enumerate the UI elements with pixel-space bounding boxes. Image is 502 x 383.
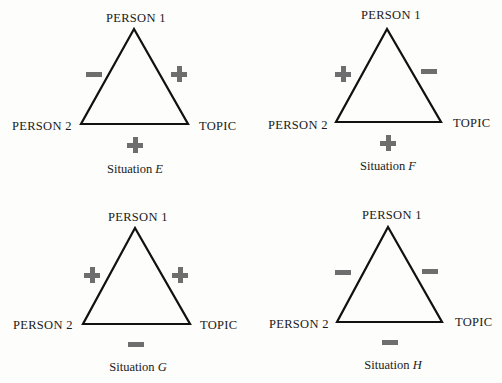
situation-g-diagram: PERSON 1 PERSON 2 TOPIC Situation G — [0, 190, 251, 383]
situation-caption: Situation H — [364, 358, 421, 373]
caption-prefix: Situation — [109, 360, 154, 374]
vertex-person2: PERSON 2 — [268, 118, 328, 133]
caption-letter: E — [155, 162, 163, 176]
caption-letter: H — [413, 358, 422, 372]
vertex-person2: PERSON 2 — [269, 317, 329, 332]
vertex-person2: PERSON 2 — [13, 318, 73, 333]
vertex-person1: PERSON 1 — [361, 8, 421, 23]
caption-letter: F — [408, 159, 416, 173]
vertex-person1: PERSON 1 — [106, 11, 166, 26]
vertex-person1: PERSON 1 — [108, 210, 168, 225]
situation-caption: Situation F — [360, 159, 416, 174]
vertex-person1: PERSON 1 — [362, 208, 422, 223]
situation-f-diagram: PERSON 1 PERSON 2 TOPIC Situation F — [251, 0, 502, 190]
situation-e-diagram: PERSON 1 PERSON 2 TOPIC Situation E — [0, 0, 251, 190]
vertex-person2: PERSON 2 — [12, 119, 72, 134]
situation-caption: Situation E — [107, 162, 163, 177]
vertex-topic: TOPIC — [199, 119, 236, 134]
situation-h-diagram: PERSON 1 PERSON 2 TOPIC Situation H — [251, 190, 502, 383]
caption-prefix: Situation — [107, 162, 152, 176]
caption-prefix: Situation — [364, 358, 409, 372]
situation-caption: Situation G — [109, 360, 166, 375]
caption-letter: G — [158, 360, 167, 374]
caption-prefix: Situation — [360, 159, 405, 173]
vertex-topic: TOPIC — [455, 315, 492, 330]
vertex-topic: TOPIC — [453, 116, 490, 131]
vertex-topic: TOPIC — [200, 318, 237, 333]
